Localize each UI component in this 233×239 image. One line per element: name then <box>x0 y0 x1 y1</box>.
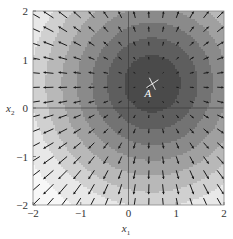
contour-cell <box>87 169 89 171</box>
contour-cell <box>155 93 157 95</box>
contour-cell <box>35 81 37 83</box>
contour-cell <box>89 139 91 141</box>
contour-cell <box>123 93 125 95</box>
contour-cell <box>201 195 203 197</box>
contour-cell <box>179 199 181 201</box>
contour-cell <box>109 113 111 115</box>
contour-cell <box>97 75 99 77</box>
contour-quiver-chart: A −2−1012 −2−1012 x1 x2 <box>0 0 233 239</box>
contour-cell <box>151 147 153 149</box>
contour-cell <box>99 55 101 57</box>
contour-cell <box>165 141 167 143</box>
contour-cell <box>185 141 187 143</box>
contour-cell <box>113 181 115 183</box>
contour-cell <box>67 25 69 27</box>
contour-cell <box>41 65 43 67</box>
contour-cell <box>63 125 65 127</box>
contour-cell <box>151 43 153 45</box>
contour-cell <box>185 83 187 85</box>
contour-cell <box>159 29 161 31</box>
contour-cell <box>171 191 173 193</box>
contour-cell <box>175 139 177 141</box>
contour-cell <box>121 133 123 135</box>
contour-cell <box>121 131 123 133</box>
contour-cell <box>41 147 43 149</box>
contour-cell <box>163 67 165 69</box>
contour-cell <box>157 57 159 59</box>
contour-cell <box>91 193 93 195</box>
contour-cell <box>55 15 57 17</box>
contour-cell <box>55 53 57 55</box>
contour-cell <box>97 177 99 179</box>
contour-cell <box>49 153 51 155</box>
contour-cell <box>115 69 117 71</box>
contour-cell <box>189 153 191 155</box>
contour-cell <box>45 143 47 145</box>
contour-cell <box>41 69 43 71</box>
contour-cell <box>39 125 41 127</box>
contour-cell <box>57 143 59 145</box>
contour-cell <box>41 191 43 193</box>
contour-cell <box>109 79 111 81</box>
contour-cell <box>163 121 165 123</box>
contour-cell <box>77 109 79 111</box>
contour-cell <box>215 25 217 27</box>
contour-cell <box>175 121 177 123</box>
contour-cell <box>193 135 195 137</box>
contour-cell <box>95 149 97 151</box>
contour-cell <box>203 39 205 41</box>
contour-cell <box>73 167 75 169</box>
contour-cell <box>169 147 171 149</box>
contour-cell <box>123 187 125 189</box>
contour-cell <box>45 21 47 23</box>
contour-cell <box>109 143 111 145</box>
contour-cell <box>65 167 67 169</box>
contour-cell <box>61 137 63 139</box>
contour-cell <box>145 177 147 179</box>
contour-cell <box>125 53 127 55</box>
contour-cell <box>127 191 129 193</box>
contour-cell <box>143 191 145 193</box>
contour-cell <box>161 135 163 137</box>
contour-cell <box>221 127 223 129</box>
contour-cell <box>177 21 179 23</box>
contour-cell <box>211 167 213 169</box>
contour-cell <box>125 111 127 113</box>
contour-cell <box>187 59 189 61</box>
contour-cell <box>117 139 119 141</box>
contour-cell <box>163 103 165 105</box>
contour-cell <box>83 117 85 119</box>
contour-cell <box>93 195 95 197</box>
contour-cell <box>129 197 131 199</box>
contour-cell <box>109 177 111 179</box>
contour-cell <box>181 181 183 183</box>
contour-cell <box>97 193 99 195</box>
contour-cell <box>97 17 99 19</box>
contour-cell <box>137 85 139 87</box>
contour-cell <box>113 19 115 21</box>
contour-cell <box>115 113 117 115</box>
contour-cell <box>151 99 153 101</box>
contour-cell <box>123 113 125 115</box>
contour-cell <box>207 51 209 53</box>
contour-cell <box>49 33 51 35</box>
contour-cell <box>111 69 113 71</box>
contour-cell <box>41 101 43 103</box>
contour-cell <box>71 81 73 83</box>
contour-cell <box>89 91 91 93</box>
contour-cell <box>221 59 223 61</box>
contour-cell <box>63 181 65 183</box>
contour-cell <box>101 31 103 33</box>
contour-cell <box>191 91 193 93</box>
contour-cell <box>77 83 79 85</box>
contour-cell <box>109 95 111 97</box>
contour-cell <box>75 185 77 187</box>
contour-cell <box>81 173 83 175</box>
contour-cell <box>115 125 117 127</box>
contour-cell <box>63 149 65 151</box>
contour-cell <box>157 27 159 29</box>
contour-cell <box>219 45 221 47</box>
contour-cell <box>71 13 73 15</box>
contour-cell <box>83 21 85 23</box>
contour-cell <box>195 89 197 91</box>
